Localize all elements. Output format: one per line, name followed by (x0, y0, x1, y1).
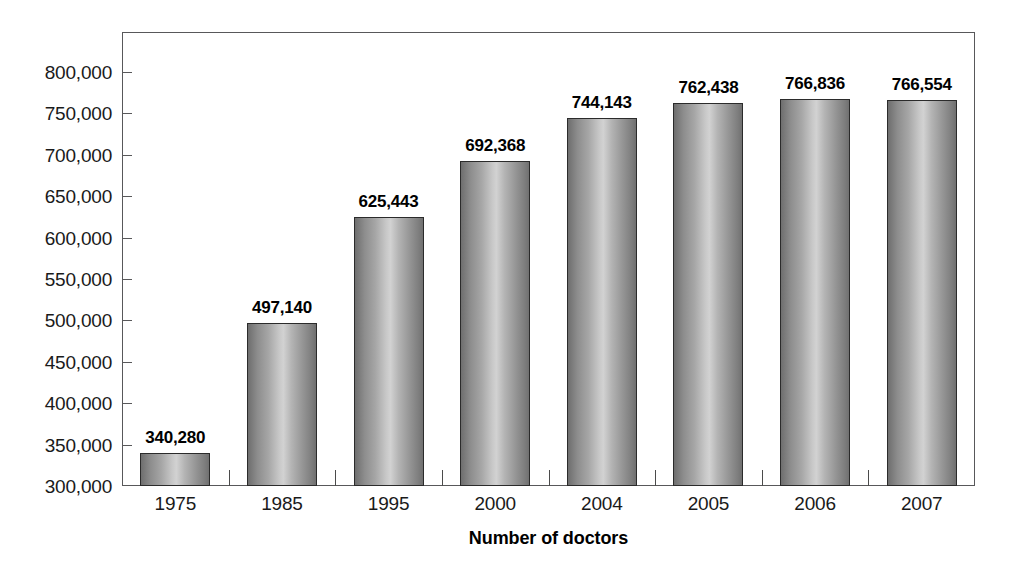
bar-value-label: 766,554 (862, 76, 982, 93)
x-axis-category-label: 2000 (435, 494, 555, 514)
bar-value-label: 340,280 (115, 429, 235, 446)
bar-chart: 300,000350,000400,000450,000500,000550,0… (0, 0, 1013, 577)
y-axis-tick-mark (122, 113, 132, 114)
x-axis-tick-mark (655, 470, 656, 486)
x-axis-tick-mark (335, 470, 336, 486)
x-axis-category-label: 2006 (755, 494, 875, 514)
y-axis-tick-mark (122, 238, 132, 239)
y-axis-tick-mark (122, 320, 132, 321)
bar (887, 100, 957, 486)
x-axis-tick-mark (229, 470, 230, 486)
x-axis-category-label: 2004 (542, 494, 662, 514)
bars-layer: 340,280497,140625,443692,368744,143762,4… (0, 0, 1013, 577)
bar (567, 118, 637, 486)
x-axis-category-label: 2005 (648, 494, 768, 514)
y-axis-tick-mark (122, 403, 132, 404)
bar (673, 103, 743, 486)
y-axis-tick-mark (122, 279, 132, 280)
bar (780, 99, 850, 486)
bar (247, 323, 317, 486)
bar-value-label: 497,140 (222, 299, 342, 316)
bar (140, 453, 210, 486)
x-axis-category-label: 1985 (222, 494, 342, 514)
x-axis-category-label: 1975 (115, 494, 235, 514)
x-axis-tick-mark (549, 470, 550, 486)
bar-value-label: 692,368 (435, 137, 555, 154)
x-axis-category-label: 1995 (329, 494, 449, 514)
x-axis-tick-mark (442, 470, 443, 486)
x-axis-title: Number of doctors (122, 529, 975, 548)
bar (354, 217, 424, 486)
x-axis-category-label: 2007 (862, 494, 982, 514)
y-axis-tick-mark (122, 72, 132, 73)
y-axis-tick-mark (122, 155, 132, 156)
y-axis-tick-mark (122, 362, 132, 363)
bar (460, 161, 530, 486)
bar-value-label: 744,143 (542, 94, 662, 111)
bar-value-label: 766,836 (755, 75, 875, 92)
bar-value-label: 625,443 (329, 193, 449, 210)
y-axis-tick-mark (122, 445, 132, 446)
x-axis-tick-mark (762, 470, 763, 486)
bar-value-label: 762,438 (648, 79, 768, 96)
x-axis-tick-mark (868, 470, 869, 486)
y-axis-tick-mark (122, 196, 132, 197)
